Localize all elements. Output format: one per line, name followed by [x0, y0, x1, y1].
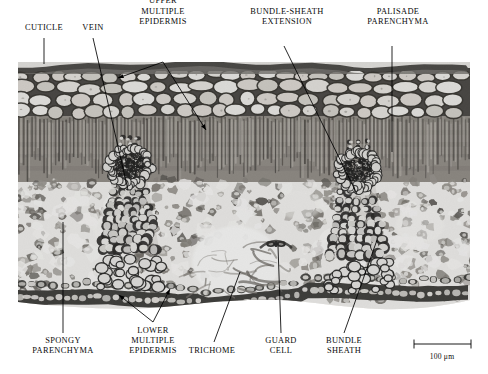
label-palisade-parenchyma: PALISADE PARENCHYMA	[298, 7, 488, 27]
leaf-cross-section-micrograph	[0, 0, 488, 374]
figure-panel: CUTICLE VEIN UPPER MULTIPLE EPIDERMIS BU…	[0, 0, 488, 374]
micrograph-body	[8, 61, 478, 313]
scale-bar-label: 100 μm	[382, 352, 488, 361]
